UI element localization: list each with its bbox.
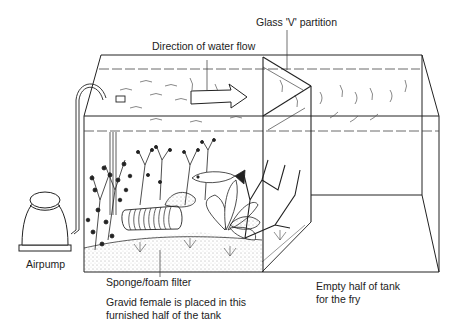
fish: [192, 170, 245, 184]
gravel-bed: [84, 222, 311, 272]
label-water-flow: Direction of water flow: [152, 40, 255, 52]
sponge-foam-filter: [122, 206, 182, 230]
label-fry-line1: Empty half of tank: [316, 280, 400, 292]
label-fry-line2: for the fry: [316, 293, 360, 305]
water-flow-arrow: [191, 84, 247, 108]
label-female-line2: furnished half of the tank: [106, 309, 221, 321]
label-female-line1: Gravid female is placed in this: [106, 296, 246, 308]
water-surface: [84, 69, 439, 131]
label-airpump: Airpump: [26, 258, 65, 270]
glass-v-partition: [263, 57, 311, 272]
broadleaf-plant: [206, 180, 258, 240]
label-sponge-filter: Sponge/foam filter: [106, 276, 191, 288]
airpump: [19, 192, 71, 251]
label-glass-v-partition: Glass 'V' partition: [256, 16, 337, 28]
